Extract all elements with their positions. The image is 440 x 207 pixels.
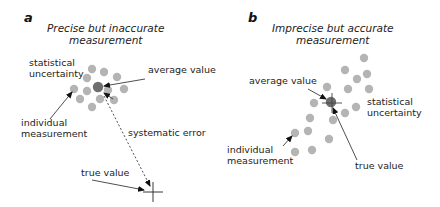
panel-b-average-arrow (308, 89, 326, 99)
measurement-dot (100, 68, 108, 76)
measurement-dot (104, 86, 112, 94)
panel-b-title-line1: Imprecise but accurate (272, 22, 393, 34)
panel-b: b Imprecise but accurate measurement ave… (227, 10, 422, 171)
panel-b-letter: b (248, 10, 257, 25)
measurement-dot (325, 135, 333, 143)
panel-a-true-value-cross-icon (143, 182, 163, 202)
panel-b-average-label: average value (249, 75, 317, 86)
measurement-dot (323, 83, 331, 91)
panel-b-individual-arrow (283, 136, 292, 146)
panel-b-title-line2: measurement (296, 34, 370, 46)
measurement-dot (341, 66, 349, 74)
measurement-dot (352, 103, 360, 111)
average-value-dot (93, 82, 103, 92)
panel-a-individual-arrow (50, 92, 72, 119)
panel-a-title-line1: Precise but inaccurate (47, 22, 164, 34)
measurement-dot (360, 54, 368, 62)
panel-a-average-label: average value (148, 64, 216, 75)
measurement-dot (329, 116, 337, 124)
panel-a-true-arrow (92, 180, 144, 190)
measurement-diagram: a Precise but inaccurate measurement sta… (0, 0, 440, 207)
measurement-dot (308, 146, 316, 154)
panel-a-statistical-label-line1: statistical (29, 57, 75, 68)
measurement-dot (353, 75, 361, 83)
measurement-dot (96, 95, 104, 103)
measurement-dot (291, 129, 299, 137)
measurement-dot (113, 73, 121, 81)
average-value-dot (326, 97, 336, 107)
panel-a-individual-label-line1: individual (21, 117, 67, 128)
measurement-dot (83, 74, 91, 82)
panel-a-true-label: true value (81, 167, 130, 178)
panel-a: a Precise but inaccurate measurement sta… (21, 10, 216, 202)
measurement-dot (120, 85, 128, 93)
measurement-dot (70, 85, 78, 93)
panel-a-individual-label-line2: measurement (21, 128, 88, 139)
panel-b-individual-label-line2: measurement (227, 155, 294, 166)
panel-a-statistical-label-line2: uncertainty (29, 68, 84, 79)
panel-b-true-value-cross-icon (322, 93, 342, 113)
measurement-dot (76, 95, 84, 103)
measurement-dot (88, 65, 96, 73)
panel-a-systematic-label: systematic error (128, 127, 206, 138)
panel-b-statistical-label-line1: statistical (367, 96, 413, 107)
measurement-dot (365, 85, 373, 93)
panel-a-title-line2: measurement (69, 34, 143, 46)
measurement-dot (306, 114, 314, 122)
panel-b-statistical-label-line2: uncertainty (367, 107, 422, 118)
measurement-dot (88, 103, 96, 111)
measurement-dot (304, 127, 312, 135)
measurement-dot (363, 70, 371, 78)
measurement-dot (310, 99, 318, 107)
panel-b-true-label: true value (355, 160, 404, 171)
measurement-dot (110, 96, 118, 104)
measurement-dot (341, 109, 349, 117)
measurement-dot (344, 85, 352, 93)
panel-b-individual-label-line1: individual (227, 144, 273, 155)
panel-a-letter: a (24, 10, 33, 25)
measurement-dot (83, 87, 91, 95)
